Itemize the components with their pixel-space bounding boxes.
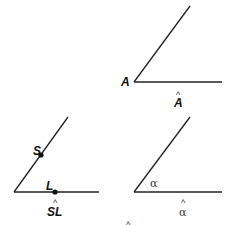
angle-alpha-arc (142, 181, 148, 192)
angle-notation-diagram: A ^ A S L ^ SL α ^ α ^ (0, 0, 227, 225)
angle-a-vertex-label: A (120, 75, 130, 89)
angle-a-caption: A (173, 96, 183, 110)
angle-a: A ^ A (120, 6, 222, 110)
angle-alpha: α ^ α (134, 117, 222, 219)
point-s-label: S (33, 144, 41, 158)
angle-alpha-label: α (150, 177, 158, 190)
angle-alpha-oblique-ray (134, 117, 190, 192)
point-l-label: L (46, 179, 53, 193)
angle-alpha-caption: α (179, 206, 187, 219)
angle-a-oblique-ray (134, 6, 190, 82)
stray-hat-mark: ^ (126, 220, 131, 225)
angle-sl: S L ^ SL (14, 117, 99, 219)
angle-sl-caption: SL (47, 205, 62, 219)
